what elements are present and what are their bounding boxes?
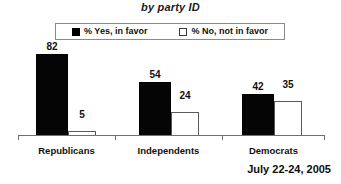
- legend-item-no: % No, not in favor: [179, 27, 268, 36]
- x-axis-label-independents: Independents: [115, 145, 222, 156]
- bar-democrats-yes: [242, 94, 274, 136]
- plot-area: 82 5 54 24 42 35: [0, 48, 341, 136]
- x-axis-tick-0: [18, 135, 19, 140]
- bar-value-republicans-yes: 82: [32, 42, 72, 52]
- bar-group-republicans: 82 5: [18, 48, 115, 136]
- bar-value-independents-no: 24: [165, 91, 205, 101]
- x-axis-line: [18, 135, 325, 136]
- survey-date-annotation: July 22-24, 2005: [0, 163, 331, 175]
- legend-swatch-filled-square-icon: [72, 28, 80, 36]
- x-axis-tick-1: [115, 135, 116, 140]
- bar-chart: by party ID % Yes, in favor % No, not in…: [0, 0, 341, 184]
- bar-value-independents-yes: 54: [135, 70, 175, 80]
- bar-group-democrats: 42 35: [222, 48, 325, 136]
- legend-item-yes: % Yes, in favor: [72, 27, 147, 36]
- bar-democrats-no: [274, 101, 302, 136]
- legend-label-yes: % Yes, in favor: [84, 27, 147, 36]
- x-axis-tick-2: [222, 135, 223, 140]
- bar-independents-no: [171, 112, 199, 136]
- bar-value-democrats-no: 35: [268, 80, 308, 90]
- x-axis-label-democrats: Democrats: [222, 145, 325, 156]
- legend-label-no: % No, not in favor: [191, 27, 268, 36]
- bar-value-republicans-no: 5: [62, 110, 102, 120]
- bar-republicans-yes: [36, 54, 68, 136]
- x-axis-label-republicans: Republicans: [18, 145, 115, 156]
- x-axis-tick-3: [324, 135, 325, 140]
- legend-swatch-hollow-square-icon: [179, 28, 187, 36]
- chart-title: by party ID: [0, 1, 341, 13]
- bar-group-independents: 54 24: [115, 48, 222, 136]
- chart-legend: % Yes, in favor % No, not in favor: [55, 23, 285, 40]
